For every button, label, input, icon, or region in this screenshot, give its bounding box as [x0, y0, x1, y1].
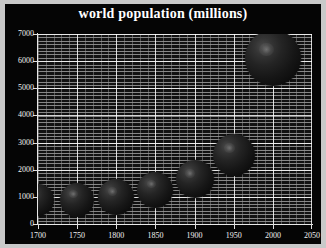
x-tick-mark-1700	[38, 224, 39, 229]
gridline-y-3000	[38, 143, 312, 144]
data-point-1700	[38, 184, 54, 216]
data-point-1950	[213, 134, 255, 176]
plot-area	[38, 34, 312, 224]
x-tick-label-1800: 1800	[101, 231, 131, 240]
major-gridlines	[38, 34, 312, 224]
x-tick-mark-2000	[273, 224, 274, 229]
x-tick-label-1900: 1900	[180, 231, 210, 240]
gridline-x-1900	[195, 34, 196, 224]
y-tick-label-3000: 3000	[18, 139, 34, 147]
data-markers	[38, 34, 312, 224]
gridline-x-1750	[77, 34, 78, 224]
x-tick-label-1700: 1700	[23, 231, 53, 240]
chart-frame: world population (millions) 010002000300…	[0, 0, 326, 248]
gridline-x-1850	[155, 34, 156, 224]
gridline-y-6000	[38, 61, 312, 62]
data-point-1900	[176, 160, 214, 198]
gridline-y-7000	[38, 34, 312, 35]
horizontal-minor-gridlines	[38, 34, 312, 224]
y-tick-label-2000: 2000	[18, 166, 34, 174]
y-tick-label-5000: 5000	[18, 84, 34, 92]
x-tick-label-1850: 1850	[140, 231, 170, 240]
data-point-1850	[137, 172, 173, 208]
x-tick-mark-1750	[77, 224, 78, 229]
y-tick-label-6000: 6000	[18, 57, 34, 65]
x-tick-label-1950: 1950	[219, 231, 249, 240]
y-tick-label-4000: 4000	[18, 111, 34, 119]
gridline-y-5000	[38, 88, 312, 89]
gridline-y-2000	[38, 170, 312, 171]
y-tick-label-1000: 1000	[18, 193, 34, 201]
gridline-y-1000	[38, 197, 312, 198]
x-tick-mark-1900	[195, 224, 196, 229]
gridline-x-1800	[116, 34, 117, 224]
chart-title: world population (millions)	[0, 6, 326, 22]
x-tick-label-2000: 2000	[258, 231, 288, 240]
x-tick-mark-1850	[155, 224, 156, 229]
y-tick-label-0: 0	[30, 220, 34, 228]
vertical-minor-gridlines	[38, 34, 312, 224]
data-point-2000	[245, 34, 301, 86]
x-tick-label-1750: 1750	[62, 231, 92, 240]
x-tick-label-2050: 2050	[297, 231, 326, 240]
x-axis-line	[37, 224, 313, 225]
gridline-x-1950	[234, 34, 235, 224]
gridline-x-2000	[273, 34, 274, 224]
x-tick-mark-2050	[311, 224, 312, 229]
data-point-1800	[98, 179, 134, 215]
x-tick-mark-1800	[116, 224, 117, 229]
data-point-1750	[60, 183, 94, 217]
y-tick-label-7000: 7000	[18, 30, 34, 38]
gridline-y-4000	[38, 115, 312, 116]
x-tick-mark-1950	[234, 224, 235, 229]
gridline-x-2050	[311, 34, 312, 224]
